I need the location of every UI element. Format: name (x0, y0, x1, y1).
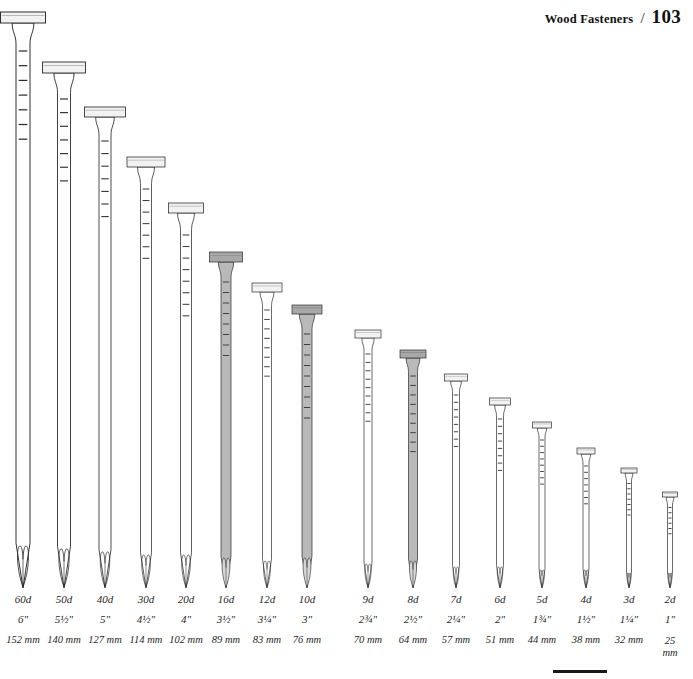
penny-size-label: 10d (299, 594, 316, 605)
nail-16d (210, 252, 243, 588)
nail-30d (127, 157, 165, 588)
nail-9d (355, 330, 381, 588)
page-canvas: Wood Fasteners / 103 60d6"152 mm50d5½"14… (0, 0, 693, 679)
inch-length-label: 1" (665, 614, 675, 625)
nail-3d (621, 468, 637, 588)
penny-size-label: 8d (408, 594, 419, 605)
mm-length-label: 44 mm (528, 635, 556, 646)
nail-label-column-10d: 10d3"76 mm (277, 594, 337, 646)
inch-length-label: 2¾" (359, 614, 377, 625)
mm-length-label: 76 mm (293, 635, 321, 646)
nail-head (445, 374, 468, 381)
mm-length-label: 70 mm (354, 635, 382, 646)
nail-shaft (260, 292, 274, 588)
mm-length-label: 57 mm (442, 635, 470, 646)
nail-head (400, 350, 426, 358)
nail-2d (663, 492, 678, 588)
nail-5d (533, 422, 552, 588)
nail-diagram-svg (0, 0, 693, 600)
mm-length-label: 89 mm (212, 635, 240, 646)
inch-length-label: 1½" (577, 614, 595, 625)
nail-50d (43, 62, 86, 588)
nail-shaft (406, 358, 420, 588)
nail-6d (490, 398, 511, 588)
nail-shaft (54, 73, 74, 588)
penny-size-label: 50d (56, 594, 73, 605)
penny-size-label: 16d (218, 594, 235, 605)
nail-7d (445, 374, 468, 588)
nail-shaft (12, 23, 34, 588)
nail-head (577, 448, 595, 454)
nail-head (252, 283, 282, 292)
penny-size-label: 12d (259, 594, 276, 605)
penny-size-label: 30d (138, 594, 155, 605)
penny-size-label: 6d (495, 594, 506, 605)
inch-length-label: 1¼" (620, 614, 638, 625)
nail-shaft (96, 117, 115, 588)
inch-length-label: 2¼" (447, 614, 465, 625)
nail-8d (400, 350, 426, 588)
inch-length-label: 6" (18, 614, 28, 625)
penny-size-label: 3d (624, 594, 635, 605)
inch-length-label: 3¼" (258, 614, 276, 625)
inch-length-label: 1¾" (533, 614, 551, 625)
nail-shaft (218, 262, 234, 588)
mm-unit: mm (662, 647, 677, 659)
nail-head (533, 422, 552, 428)
nail-head (292, 305, 322, 314)
mm-length-label: 32 mm (615, 635, 643, 646)
inch-length-label: 2" (495, 614, 505, 625)
nail-20d (169, 203, 204, 588)
nail-40d (85, 107, 126, 588)
nail-size-chart (0, 0, 693, 600)
nail-head (355, 330, 381, 338)
nail-shaft (581, 454, 590, 588)
nail-head (127, 157, 165, 167)
nail-label-row: 60d6"152 mm50d5½"140 mm40d5"127 mm30d4½"… (0, 594, 693, 674)
mm-value: 25 (662, 635, 677, 647)
nail-head (663, 492, 678, 497)
nail-10d (292, 305, 322, 588)
inch-length-label: 4½" (137, 614, 155, 625)
nail-shaft (137, 167, 154, 588)
penny-size-label: 5d (537, 594, 548, 605)
nail-head (85, 107, 126, 117)
nail-shaft (495, 405, 506, 588)
nail-12d (252, 283, 282, 588)
nail-head (210, 252, 243, 262)
penny-size-label: 4d (581, 594, 592, 605)
inch-length-label: 3½" (217, 614, 235, 625)
mm-length-label: 64 mm (399, 635, 427, 646)
penny-size-label: 60d (15, 594, 32, 605)
penny-size-label: 40d (97, 594, 114, 605)
nail-head (1, 12, 46, 23)
nail-shaft (451, 381, 462, 588)
nail-head (43, 62, 86, 73)
nail-head (169, 203, 204, 213)
mm-length-label: 25mm (662, 635, 677, 659)
inch-length-label: 2½" (404, 614, 422, 625)
nail-shaft (362, 338, 374, 588)
nail-shaft (625, 473, 633, 588)
mm-length-label: 51 mm (486, 635, 514, 646)
penny-size-label: 2d (665, 594, 676, 605)
inch-length-label: 3" (302, 614, 312, 625)
mm-length-label: 38 mm (572, 635, 600, 646)
nail-4d (577, 448, 595, 588)
nail-shaft (537, 428, 546, 588)
penny-size-label: 9d (363, 594, 374, 605)
inch-length-label: 4" (181, 614, 191, 625)
nail-60d (1, 12, 46, 588)
nail-head (490, 398, 511, 405)
nail-label-column-2d: 2d1"25mm (640, 594, 693, 659)
penny-size-label: 20d (178, 594, 195, 605)
scale-bar (553, 670, 607, 673)
inch-length-label: 5½" (55, 614, 73, 625)
inch-length-label: 5" (100, 614, 110, 625)
penny-size-label: 7d (451, 594, 462, 605)
nail-head (621, 468, 637, 473)
